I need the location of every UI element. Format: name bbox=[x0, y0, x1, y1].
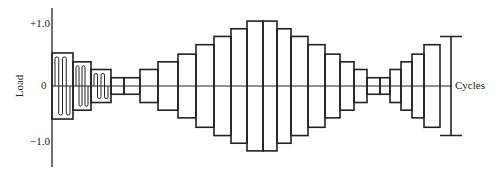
y-tick-minus-one: −1.0 bbox=[30, 135, 50, 147]
y-axis-label: Load bbox=[13, 75, 25, 98]
y-tick-zero: 0 bbox=[41, 79, 47, 91]
x-axis-label: Cycles bbox=[455, 79, 485, 91]
y-tick-plus-one: +1.0 bbox=[30, 17, 50, 29]
block-loading-diagram bbox=[0, 0, 499, 174]
